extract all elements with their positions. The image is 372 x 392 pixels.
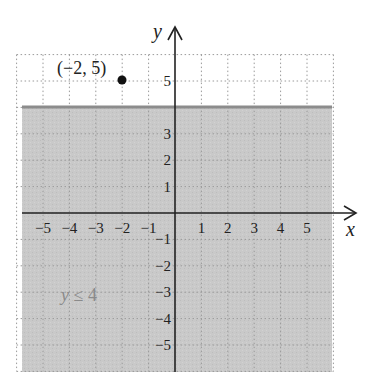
y-axis-label: y <box>151 20 162 43</box>
y-tick-label: 1 <box>164 179 172 195</box>
x-tick-label: 2 <box>224 220 232 236</box>
x-tick-label: −4 <box>61 220 77 236</box>
inequality-relation: ≤ 4 <box>69 285 97 305</box>
x-axis-label: x <box>345 218 355 240</box>
y-tick-label: 5 <box>164 73 172 89</box>
x-tick-label: −5 <box>35 220 51 236</box>
y-tick-label: 3 <box>164 126 172 142</box>
x-tick-label: 4 <box>277 220 285 236</box>
x-tick-label: 1 <box>198 220 206 236</box>
inequality-graph: x y −5−4−3−2−112345 −5−4−3−2−11235 (−2, … <box>0 0 372 392</box>
x-tick-label: 3 <box>250 220 258 236</box>
y-tick-label: −5 <box>155 337 171 353</box>
y-tick-label: −1 <box>155 231 171 247</box>
inequality-variable: y <box>59 285 69 305</box>
point-label: (−2, 5) <box>57 58 106 79</box>
y-tick-label: −4 <box>155 311 171 327</box>
y-tick-label: 2 <box>164 152 172 168</box>
inequality-label: y ≤ 4 <box>59 285 97 305</box>
x-tick-label: 5 <box>303 220 311 236</box>
x-tick-label: −2 <box>114 220 130 236</box>
x-tick-label: −3 <box>88 220 104 236</box>
y-tick-label: −3 <box>155 284 171 300</box>
y-tick-label: −2 <box>155 258 171 274</box>
point-marker <box>118 76 127 85</box>
